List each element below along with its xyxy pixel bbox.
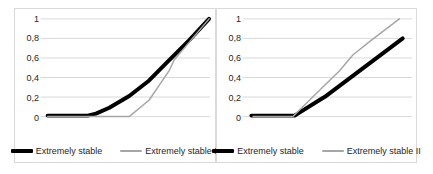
legend-item-extremely-stable-ii: Extremely stable II [322,146,421,156]
legend-label: Extremely stable II [145,146,219,156]
legend-line-swatch [120,150,142,152]
legend-label: Extremely stable [36,146,103,156]
figure: 10,80,60,40,20 Extremely stableExtremely… [0,0,433,174]
chart-right-y-axis: 10,80,60,40,20 [217,9,416,162]
y-tick-label: 0,6 [15,53,39,64]
legend-item-extremely-stable: Extremely stable [11,146,103,156]
y-tick-label: 1 [15,14,39,25]
y-tick-label: 1 [217,14,241,25]
legend-label: Extremely stable II [347,146,421,156]
y-tick-label: 0 [217,113,241,124]
chart-left-panel: 10,80,60,40,20 Extremely stableExtremely… [14,8,216,163]
chart-right-legend: Extremely stableExtremely stable II [217,146,416,156]
y-tick-label: 0,4 [217,73,241,84]
legend-item-extremely-stable-ii: Extremely stable II [120,146,219,156]
y-tick-label: 0,8 [217,33,241,44]
chart-left-legend: Extremely stableExtremely stable II [15,146,215,156]
legend-item-extremely-stable: Extremely stable [212,146,304,156]
legend-line-swatch [322,150,344,152]
y-tick-label: 0 [15,113,39,124]
y-tick-label: 0,2 [217,93,241,104]
legend-line-swatch [11,149,33,153]
legend-label: Extremely stable [237,146,304,156]
chart-right-panel: 10,80,60,40,20 Extremely stableExtremely… [216,8,417,163]
y-tick-label: 0,4 [15,73,39,84]
y-tick-label: 0,2 [15,93,39,104]
legend-line-swatch [212,149,234,153]
chart-left-y-axis: 10,80,60,40,20 [15,9,215,162]
y-tick-label: 0,6 [217,53,241,64]
y-tick-label: 0,8 [15,33,39,44]
